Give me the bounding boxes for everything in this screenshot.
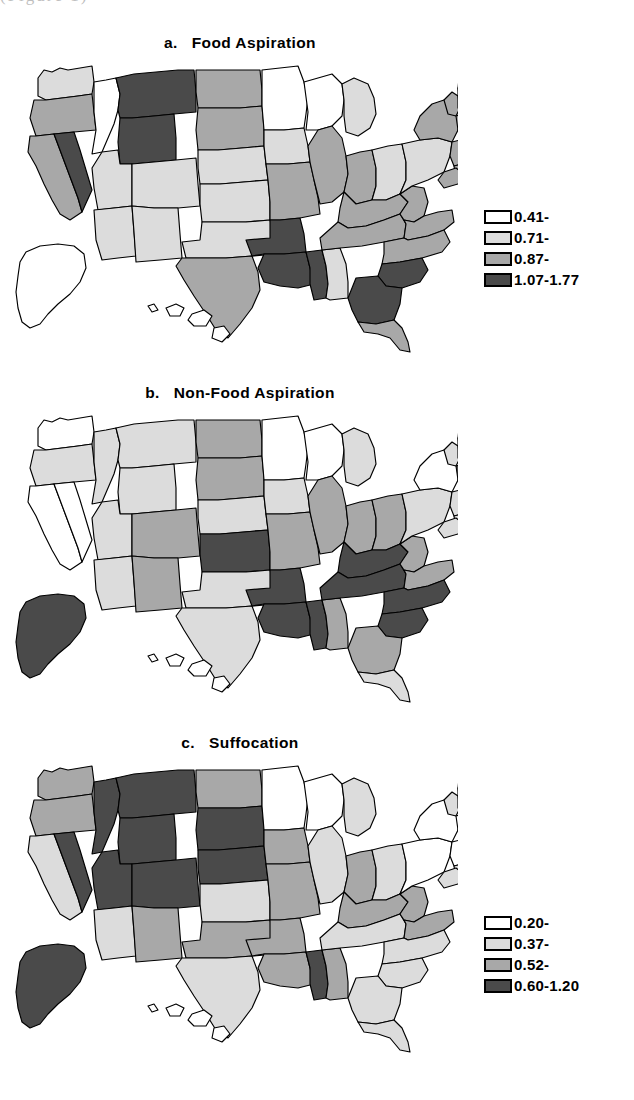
legend-swatch-class1	[484, 210, 512, 224]
state-id	[92, 78, 120, 154]
state-az	[94, 556, 136, 610]
state-co	[132, 508, 200, 558]
state-ks	[200, 180, 270, 222]
panel-c-title-text: Suffocation	[209, 734, 299, 751]
state-wi	[304, 74, 344, 130]
state-sd	[196, 456, 264, 500]
panel-a-title-text: Food Aspiration	[192, 34, 316, 51]
panel-b-title-text: Non-Food Aspiration	[174, 384, 335, 401]
state-tx	[176, 606, 260, 688]
state-or	[30, 794, 96, 836]
state-fl	[358, 670, 410, 702]
state-mi	[342, 78, 376, 136]
state-ak	[16, 944, 86, 1028]
state-tx	[176, 256, 260, 338]
state-nj	[450, 840, 458, 866]
state-wi	[304, 774, 344, 830]
panel-b-tag: b.	[145, 384, 160, 401]
state-mt	[116, 420, 196, 468]
state-ne	[198, 146, 268, 184]
state-or	[30, 94, 96, 136]
state-wy	[118, 814, 176, 864]
state-co	[132, 858, 200, 908]
state-nj	[450, 140, 458, 166]
panel-a-map	[8, 56, 458, 356]
state-co	[132, 158, 200, 208]
state-id	[92, 428, 120, 504]
state-or	[30, 444, 96, 486]
state-nj	[450, 490, 458, 516]
state-tx	[176, 956, 260, 1038]
map-panel-b: b.Non-Food Aspiration 0.20- 0.37- 0.52-	[0, 384, 634, 724]
legend-row: 0.41-	[484, 206, 634, 227]
state-nd	[196, 70, 262, 108]
state-wi	[304, 424, 344, 480]
legend-swatch-class4	[484, 273, 512, 287]
state-fl	[358, 320, 410, 352]
state-la	[258, 602, 314, 638]
state-ia	[264, 478, 310, 514]
state-ia	[264, 128, 310, 164]
state-nd	[196, 770, 262, 808]
legend-swatch-class3	[484, 252, 512, 266]
panel-a-tag: a.	[164, 34, 178, 51]
legend-label: 0.87-	[514, 250, 549, 267]
state-az	[94, 906, 136, 960]
panel-a-title: a.Food Aspiration	[0, 34, 480, 52]
state-wy	[118, 464, 176, 514]
legend-row: 1.07-1.77	[484, 269, 634, 290]
state-ia	[264, 828, 310, 864]
panel-b-title: b.Non-Food Aspiration	[0, 384, 480, 402]
state-wy	[118, 114, 176, 164]
state-mi	[342, 778, 376, 836]
panel-c-map	[8, 756, 458, 1056]
state-ne	[198, 496, 268, 534]
state-sd	[196, 106, 264, 150]
figure-page: (Figure 1) a.Food Aspiration 0.41- 0.71-…	[0, 0, 634, 1100]
state-mn	[262, 766, 308, 830]
state-la	[258, 952, 314, 988]
state-in	[344, 500, 376, 554]
panel-b-map	[8, 406, 458, 706]
map-panel-c: c.Suffocation 0.20- 0.34- 0.44- 0.69-1.2	[0, 734, 634, 1084]
panel-c-tag: c.	[181, 734, 195, 751]
state-in	[344, 150, 376, 204]
legend-swatch-class2	[484, 231, 512, 245]
state-ks	[200, 880, 270, 922]
state-nm	[132, 556, 182, 612]
legend-label: 0.71-	[514, 229, 549, 246]
legend-row: 0.87-	[484, 248, 634, 269]
state-nd	[196, 420, 262, 458]
legend-label: 1.07-1.77	[514, 271, 579, 288]
state-id	[92, 778, 120, 854]
state-sd	[196, 806, 264, 850]
panel-c-title: c.Suffocation	[0, 734, 480, 752]
state-ak	[16, 244, 86, 328]
state-nm	[132, 206, 182, 262]
state-ak	[16, 594, 86, 678]
map-panel-a: a.Food Aspiration 0.41- 0.71- 0.87- 1.07	[0, 34, 634, 374]
state-mn	[262, 66, 308, 130]
legend-row: 0.71-	[484, 227, 634, 248]
panel-a-legend: 0.41- 0.71- 0.87- 1.07-1.77	[484, 206, 634, 290]
state-fl	[358, 1020, 410, 1052]
state-az	[94, 206, 136, 260]
clipped-caption-text: (Figure 1)	[0, 0, 420, 6]
legend-label: 0.41-	[514, 208, 549, 225]
state-mt	[116, 70, 196, 118]
state-ne	[198, 846, 268, 884]
state-ks	[200, 530, 270, 572]
state-nm	[132, 906, 182, 962]
state-mn	[262, 416, 308, 480]
state-la	[258, 252, 314, 288]
state-mi	[342, 428, 376, 486]
state-mt	[116, 770, 196, 818]
state-in	[344, 850, 376, 904]
